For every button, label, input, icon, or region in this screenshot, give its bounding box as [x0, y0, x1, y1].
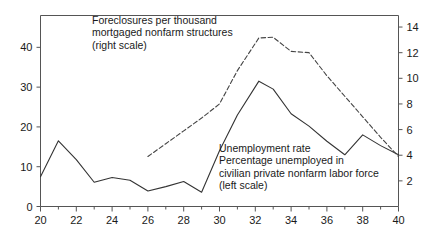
svg-text:12: 12 — [407, 47, 419, 59]
svg-text:38: 38 — [357, 214, 369, 226]
svg-text:20: 20 — [20, 121, 32, 133]
svg-text:10: 10 — [407, 72, 419, 84]
foreclosures-annotation-line-1: Foreclosures per thousand — [92, 14, 233, 26]
svg-text:40: 40 — [392, 214, 404, 226]
svg-text:8: 8 — [407, 98, 413, 110]
series-line-2 — [148, 37, 399, 156]
svg-text:0: 0 — [26, 201, 32, 213]
foreclosures-annotation: Foreclosures per thousand mortgaged nonf… — [92, 14, 233, 51]
svg-text:24: 24 — [106, 214, 118, 226]
svg-text:30: 30 — [20, 81, 32, 93]
svg-text:26: 26 — [142, 214, 154, 226]
svg-text:40: 40 — [20, 41, 32, 53]
svg-text:34: 34 — [285, 214, 297, 226]
svg-text:6: 6 — [407, 124, 413, 136]
unemployment-annotation-line-1: Unemployment rate — [219, 142, 379, 154]
svg-text:2: 2 — [407, 175, 413, 187]
unemployment-annotation-line-2: Percentage unemployed in — [219, 154, 379, 166]
svg-text:10: 10 — [20, 161, 32, 173]
svg-text:22: 22 — [70, 214, 82, 226]
svg-text:36: 36 — [321, 214, 333, 226]
unemployment-annotation-line-4: (left scale) — [219, 179, 379, 191]
bottom-axis-ticks: 2022242628303234363840 — [34, 207, 404, 226]
foreclosures-annotation-line-2: mortgaged nonfarm structures — [92, 26, 233, 38]
svg-text:14: 14 — [407, 21, 419, 33]
unemployment-annotation-line-3: civilian private nonfarm labor force — [219, 167, 379, 179]
svg-text:20: 20 — [34, 214, 46, 226]
svg-text:32: 32 — [249, 214, 261, 226]
chart-container: 010203040 2468101214 2022242628303234363… — [0, 0, 429, 237]
left-axis-ticks: 010203040 — [20, 41, 40, 212]
svg-text:4: 4 — [407, 149, 413, 161]
foreclosures-annotation-line-3: (right scale) — [92, 39, 233, 51]
unemployment-annotation: Unemployment rate Percentage unemployed … — [219, 142, 379, 192]
right-axis-ticks: 2468101214 — [399, 21, 419, 187]
svg-text:28: 28 — [178, 214, 190, 226]
svg-text:30: 30 — [213, 214, 225, 226]
